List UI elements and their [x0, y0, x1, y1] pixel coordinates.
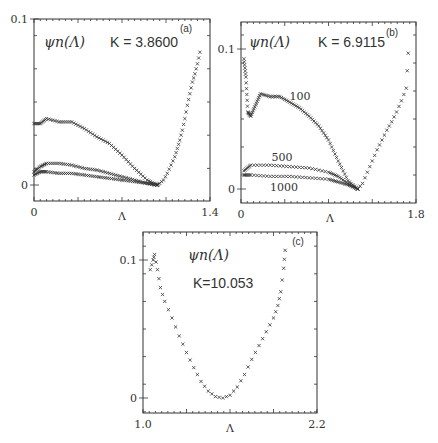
panel-a: 00.101.4Λψn(Λ)K = 3.8600(a) [11, 13, 219, 223]
psi-label: ψn(Λ) [44, 34, 85, 50]
psi-label: ψn(Λ) [188, 247, 229, 263]
series-100 [242, 57, 359, 190]
panel-c: 00.11.02.2Λψn(Λ)K=10.053(c) [120, 232, 326, 435]
k-value-label: K = 3.8600 [110, 34, 178, 50]
x-tick-label: 2.2 [308, 418, 326, 431]
series-1000 [242, 173, 359, 190]
curve-label: 500 [272, 151, 293, 164]
y-tick-label: 0 [130, 392, 137, 405]
x-tick-label: 0 [31, 206, 38, 219]
series-lower [32, 170, 158, 186]
plot-frame [143, 232, 317, 413]
series-ψn [149, 249, 287, 400]
x-axis-label: Λ [225, 422, 235, 435]
y-tick-label: 0 [228, 183, 235, 196]
y-tick-label: 0.1 [120, 254, 138, 267]
k-value-label: K = 6.9115 [318, 34, 385, 50]
y-tick-label: 0.1 [11, 13, 29, 26]
curve-label: 100 [290, 90, 311, 103]
panel-b: 00.101.8Λψn(Λ)K = 6.9115(b)1005001000 [218, 22, 425, 225]
psi-label: ψn(Λ) [249, 34, 290, 50]
figure: 00.101.4Λψn(Λ)K = 3.8600(a) 00.101.8Λψn(… [0, 0, 438, 443]
series-right-branch [156, 51, 202, 187]
x-tick-label: 1.0 [134, 418, 152, 431]
x-tick-label: 1.8 [407, 208, 425, 221]
series-right-branch [356, 52, 410, 191]
k-value-label: K=10.053 [193, 275, 254, 291]
panel-label: (b) [386, 27, 398, 38]
x-tick-label: 1.4 [201, 206, 219, 219]
x-axis-label: Λ [117, 210, 127, 223]
curve-label: 1000 [270, 181, 298, 194]
series-upper [32, 117, 158, 187]
x-tick-label: 0 [238, 208, 245, 221]
panel-label: (a) [180, 23, 192, 34]
x-axis-label: Λ [325, 212, 335, 225]
y-tick-label: 0.1 [218, 43, 236, 56]
y-tick-label: 0 [21, 179, 28, 192]
panel-label: (c) [292, 236, 304, 247]
